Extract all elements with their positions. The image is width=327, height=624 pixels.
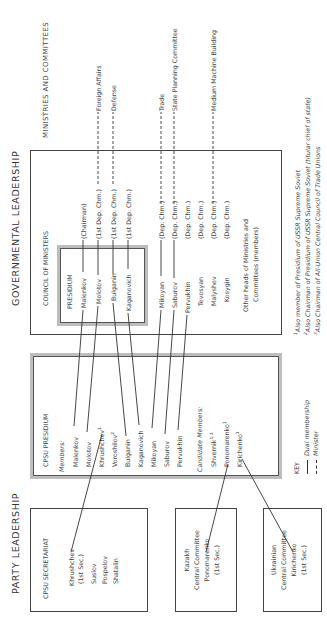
key-minister: Minister xyxy=(312,431,319,456)
connector-lines xyxy=(0,0,327,624)
key-dual-membership: Dual membership xyxy=(303,400,310,456)
dashed-line-icon xyxy=(316,460,317,474)
footnote-3: 3Also Chairman of All-Union Central Coun… xyxy=(313,147,321,335)
key-title: KEY xyxy=(293,462,300,474)
soviet-leadership-diagram: PARTY LEADERSHIP GOVERNMENTAL LEADERSHIP… xyxy=(0,0,327,624)
footnote-2: 2Also Chairman of Presidium of USSR Supr… xyxy=(303,97,311,335)
solid-line-icon xyxy=(307,460,308,474)
footnote-1: 1Also member of Presidium of USSR Suprem… xyxy=(293,170,301,335)
